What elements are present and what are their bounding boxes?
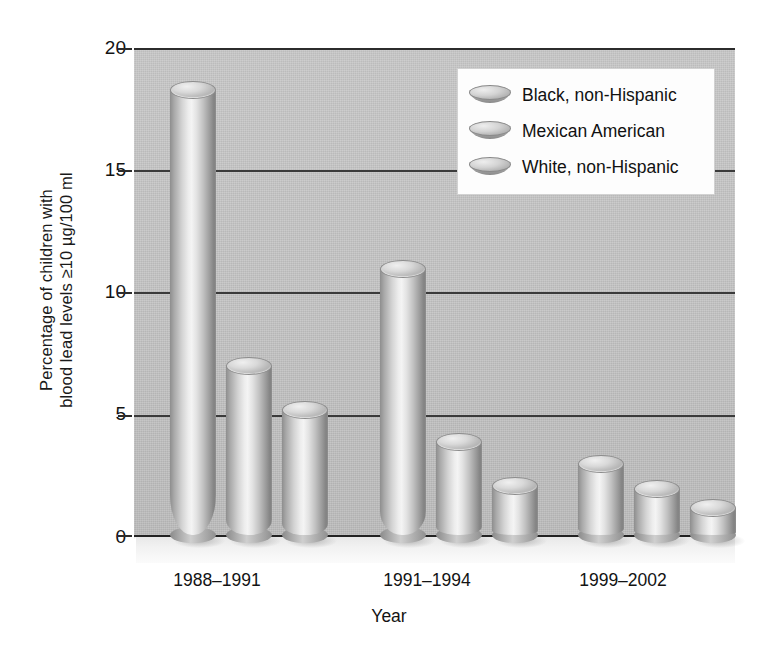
bar-body [380, 269, 426, 535]
x-tick-1991-1994: 1991–1994 [362, 572, 492, 590]
tick-mark-20 [118, 48, 132, 50]
bar-1988-1991-white-non-hispanic [282, 410, 328, 535]
bar-top-ellipse [492, 477, 538, 495]
legend-item-white-non-hispanic: White, non-Hispanic [458, 150, 714, 186]
tick-mark-5 [118, 415, 132, 417]
legend-disk-icon [469, 85, 511, 107]
bar-body [170, 90, 216, 535]
tick-mark-0 [118, 535, 132, 537]
bar-top-ellipse [380, 260, 426, 278]
legend-disk-icon [469, 157, 511, 179]
bar-top-ellipse [170, 81, 216, 99]
y-axis-tick-labels: 20 15 10 5 0 [86, 0, 126, 646]
y-tick-5: 5 [92, 404, 126, 423]
y-axis-title-line-2: blood lead levels ≥10 µg/100 ml [56, 50, 76, 530]
bar-body [226, 366, 272, 535]
legend-label: White, non-Hispanic [522, 159, 679, 177]
bar-1999-2002-black-non-hispanic [578, 464, 624, 535]
y-axis-title: Percentage of children with blood lead l… [36, 50, 76, 530]
bar-top-ellipse [226, 357, 272, 375]
bar-top-ellipse [634, 480, 680, 498]
bar-body [282, 410, 328, 535]
y-axis-title-line-1: Percentage of children with [36, 50, 56, 530]
gridline-10 [134, 292, 735, 294]
bar-top-ellipse [578, 455, 624, 473]
bar-top-ellipse [436, 433, 482, 451]
bar-body [578, 464, 624, 535]
bar-body [436, 442, 482, 535]
legend-item-mexican-american: Mexican American [458, 114, 714, 150]
legend-label: Mexican American [522, 123, 665, 141]
bar-1988-1991-black-non-hispanic [170, 90, 216, 535]
x-tick-1988-1991: 1988–1991 [152, 572, 282, 590]
bar-1988-1991-mexican-american [226, 366, 272, 535]
chart-legend: Black, non-Hispanic Mexican American Whi… [457, 68, 715, 195]
bar-1999-2002-mexican-american [634, 489, 680, 535]
x-axis-title: Year [0, 606, 778, 627]
tick-mark-15 [118, 170, 132, 172]
bar-1991-1994-mexican-american [436, 442, 482, 535]
tick-mark-10 [118, 292, 132, 294]
bar-1999-2002-white-non-hispanic [690, 508, 736, 535]
x-tick-1999-2002: 1999–2002 [558, 572, 688, 590]
bar-1991-1994-white-non-hispanic [492, 486, 538, 535]
chart-figure: Percentage of children with blood lead l… [0, 0, 778, 646]
gridline-20 [134, 48, 735, 50]
bar-1991-1994-black-non-hispanic [380, 269, 426, 535]
legend-item-black-non-hispanic: Black, non-Hispanic [458, 78, 714, 114]
legend-disk-icon [469, 121, 511, 143]
bar-top-ellipse [690, 499, 736, 517]
gridline-5 [134, 415, 735, 417]
legend-label: Black, non-Hispanic [522, 87, 677, 105]
bar-top-ellipse [282, 401, 328, 419]
